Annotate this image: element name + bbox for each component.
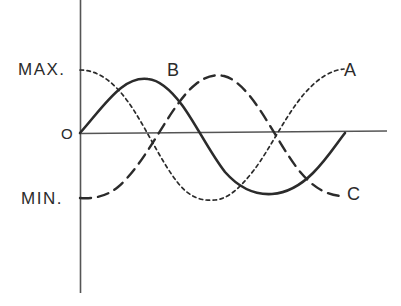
curve-label-c: C — [347, 184, 360, 205]
curve-label-a: A — [344, 60, 356, 81]
y-axis-origin-label: O — [61, 125, 73, 142]
y-axis-max-label: MAX. — [18, 60, 66, 80]
y-axis-min-label: MIN. — [21, 189, 63, 209]
axes-group — [80, 0, 387, 293]
waveform-chart — [0, 0, 401, 306]
x-axis-line — [80, 131, 387, 134]
curve-label-b: B — [167, 60, 179, 81]
curves-group — [80, 69, 345, 200]
curve-c-path — [80, 75, 341, 198]
